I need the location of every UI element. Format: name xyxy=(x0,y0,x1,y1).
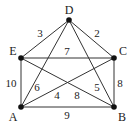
edge-d-e xyxy=(21,20,69,58)
edge-weight-a-b: 9 xyxy=(64,109,70,121)
nodes-group xyxy=(18,17,117,110)
node-label-b: B xyxy=(118,110,126,124)
edge-d-c xyxy=(69,20,114,58)
node-d-dot xyxy=(66,17,72,23)
edge-weight-d-b: 5 xyxy=(94,81,100,93)
edge-weight-d-a: 6 xyxy=(34,81,40,93)
edge-weight-e-c: 7 xyxy=(64,45,70,57)
edge-weight-d-e: 3 xyxy=(37,27,43,39)
edge-weight-c-b: 8 xyxy=(117,77,123,89)
node-label-d: D xyxy=(65,3,74,17)
node-a-dot xyxy=(18,104,24,110)
edge-weight-c-a: 4 xyxy=(54,89,60,101)
edge-weight-e-a: 10 xyxy=(6,77,18,89)
weighted-graph-diagram: 32657108489 DECAB xyxy=(0,0,133,124)
edge-weight-d-c: 2 xyxy=(94,27,100,39)
node-label-a: A xyxy=(9,110,18,124)
node-e-dot xyxy=(18,55,24,61)
node-label-c: C xyxy=(119,44,127,58)
edges-group xyxy=(21,20,114,107)
node-c-dot xyxy=(111,55,117,61)
edge-weight-e-b: 8 xyxy=(74,89,80,101)
node-label-e: E xyxy=(9,44,16,58)
node-b-dot xyxy=(111,104,117,110)
